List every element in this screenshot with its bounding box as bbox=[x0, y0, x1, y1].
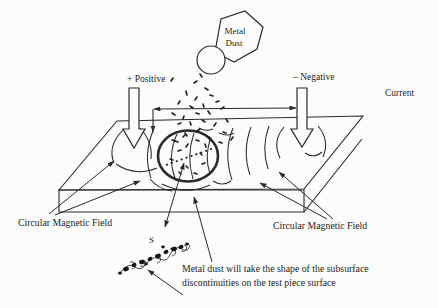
caption-line1: Metal dust will take the shape of the su… bbox=[182, 263, 369, 274]
field-label-right: Circular Magnetic Field bbox=[273, 220, 367, 231]
plate-top-face bbox=[59, 116, 363, 190]
field-right-arrow-1 bbox=[260, 183, 327, 219]
caption-line2: discontinuities on the test piece surfac… bbox=[182, 277, 336, 288]
diagram-canvas: Metal Dust + Positive – Negative Current… bbox=[0, 0, 437, 308]
field-arc bbox=[112, 130, 123, 163]
field-arc bbox=[116, 164, 157, 172]
test-piece-plate bbox=[59, 116, 363, 212]
field-arc bbox=[305, 152, 322, 156]
dust-cluster-blobs bbox=[118, 242, 189, 274]
negative-label: – Negative bbox=[292, 72, 334, 82]
plate-front-face bbox=[59, 190, 304, 212]
field-arc bbox=[228, 128, 233, 180]
crack-to-cluster-arrow bbox=[165, 163, 184, 227]
field-label-left: Circular Magnetic Field bbox=[18, 217, 112, 228]
field-arc bbox=[207, 137, 211, 174]
field-arc bbox=[199, 128, 213, 130]
caption-leader-line bbox=[194, 197, 212, 262]
mpi-diagram-svg: Metal Dust + Positive – Negative Current… bbox=[0, 0, 437, 308]
positive-electrode-arrow bbox=[123, 88, 145, 148]
falling-dust-particles bbox=[171, 74, 233, 147]
current-label: Current bbox=[385, 88, 414, 98]
field-arc bbox=[265, 126, 269, 169]
field-left-arrow-2 bbox=[55, 181, 140, 215]
field-left-arrow-1 bbox=[49, 161, 114, 214]
dust-cluster bbox=[118, 242, 190, 274]
positive-label: + Positive bbox=[127, 74, 165, 84]
dust-cluster-scribble bbox=[121, 245, 190, 272]
field-arc bbox=[246, 127, 251, 175]
current-double-arrow bbox=[154, 108, 296, 109]
cluster-pointer-arrow bbox=[148, 270, 183, 295]
field-arc bbox=[213, 181, 231, 184]
pole-label: S bbox=[149, 235, 154, 245]
container-label-line1: Metal bbox=[225, 26, 246, 36]
container-label-line2: Dust bbox=[225, 38, 243, 48]
field-arc bbox=[277, 127, 284, 158]
container-spout bbox=[197, 46, 225, 74]
